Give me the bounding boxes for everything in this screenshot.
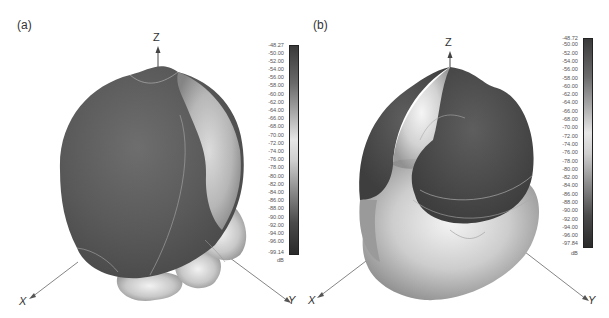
axis-label-x-a: X xyxy=(19,295,26,307)
axis-label-x-b: X xyxy=(308,294,315,306)
panel-a: (a) xyxy=(0,0,305,318)
panel-b: (b) xyxy=(305,0,609,318)
y-axis-b xyxy=(525,252,586,299)
axis-label-y-a: Y xyxy=(288,294,295,306)
axis-label-z-a: Z xyxy=(153,31,160,43)
colorbar-a xyxy=(289,45,299,255)
colorbar-unit-a: dB xyxy=(277,257,284,263)
colorbar-ticks-a: -48.27 -50.00 -52.00 -54.00 -56.00 -58.0… xyxy=(250,43,284,253)
colorbar-b xyxy=(583,38,593,248)
colorbar-ticks-b: -48.72 -50.00 -52.00 -54.00 -56.00 -58.0… xyxy=(544,36,578,246)
axis-label-z-b: Z xyxy=(445,36,452,48)
x-axis-a xyxy=(32,262,78,297)
colorbar-unit-b: dB xyxy=(571,250,578,256)
axis-label-y-b: Y xyxy=(588,294,595,306)
x-axis-b xyxy=(320,258,370,296)
